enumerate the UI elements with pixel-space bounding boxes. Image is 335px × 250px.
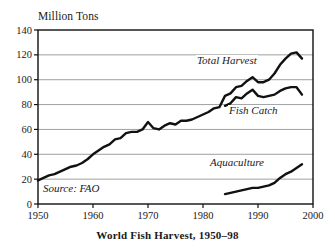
series-line-fish-catch [225,87,302,106]
gridlines-group [38,55,313,179]
source-note: Source: FAO [42,182,101,194]
y-tick-label: 120 [16,49,32,60]
x-tick-label: 1950 [28,210,49,221]
x-tick-label: 1970 [138,210,159,221]
series-paths-group [38,52,302,194]
chart-canvas: 0204060801001201401950196019701980199020… [0,0,335,250]
plot-frame [38,30,313,204]
x-tick-label: 1980 [193,210,214,221]
y-tick-label: 60 [22,124,33,135]
x-tick-label: 1990 [248,210,269,221]
y-axis-unit-label: Million Tons [38,10,99,22]
figure-title: World Fish Harvest, 1950–98 [0,229,335,241]
fish-harvest-chart-figure: 0204060801001201401950196019701980199020… [0,0,335,250]
y-tick-label: 140 [16,25,32,36]
y-tick-label: 100 [16,74,32,85]
y-tick-label: 40 [22,149,33,160]
y-tick-label: 20 [22,174,33,185]
y-tick-label: 0 [27,199,32,210]
series-label-aquaculture: Aquaculture [209,157,265,169]
series-label-total-harvest: Total Harvest [196,55,258,67]
x-tick-label: 2000 [303,210,324,221]
y-tick-label: 80 [22,99,33,110]
axis-frame [38,30,313,204]
series-label-fish-catch: Fish Catch [228,105,279,117]
x-tick-label: 1960 [83,210,104,221]
